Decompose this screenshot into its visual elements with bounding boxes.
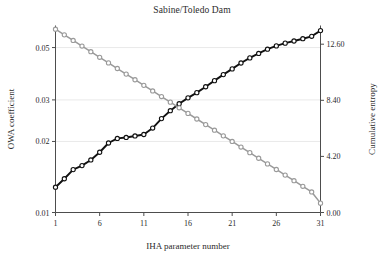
y-axis-label: OWA coefficient xyxy=(6,88,16,149)
data-point-marker xyxy=(151,89,155,93)
data-point-marker xyxy=(204,123,208,127)
plot-frame xyxy=(56,26,321,213)
x-tick-label: 11 xyxy=(140,219,148,228)
data-point-marker xyxy=(106,61,110,65)
data-point-marker xyxy=(89,50,93,54)
data-point-marker xyxy=(248,56,252,60)
data-point-marker xyxy=(151,126,155,130)
data-point-marker xyxy=(212,79,216,83)
y2-tick-label: 12.60 xyxy=(327,40,345,49)
data-point-marker xyxy=(62,177,66,181)
data-point-marker xyxy=(230,67,234,71)
data-point-marker xyxy=(283,173,287,177)
data-point-marker xyxy=(274,44,278,48)
data-point-marker xyxy=(53,27,57,31)
data-point-marker xyxy=(124,72,128,76)
data-point-marker xyxy=(292,179,296,183)
y-tick-labels: 0.010.020.030.05 xyxy=(36,44,50,218)
gridlines-group xyxy=(56,48,321,142)
chart-plot-area: 161116212631 0.010.020.030.05 0.004.208.… xyxy=(0,0,384,256)
data-point-marker xyxy=(248,151,252,155)
data-point-marker xyxy=(195,117,199,121)
data-point-marker xyxy=(283,41,287,45)
data-point-marker xyxy=(239,145,243,149)
data-point-marker xyxy=(53,185,57,189)
data-point-marker xyxy=(80,44,84,48)
data-point-marker xyxy=(133,78,137,82)
data-point-marker xyxy=(310,34,314,38)
x-tick-label: 16 xyxy=(184,219,192,228)
y2-tick-label: 0.00 xyxy=(327,209,341,218)
data-point-marker xyxy=(177,106,181,110)
data-point-marker xyxy=(186,96,190,100)
data-point-marker xyxy=(195,91,199,95)
data-point-marker xyxy=(310,190,314,194)
data-point-marker xyxy=(159,116,163,120)
data-point-marker xyxy=(142,132,146,136)
data-point-marker xyxy=(230,139,234,143)
data-point-marker xyxy=(186,111,190,115)
series-line xyxy=(56,29,321,203)
data-point-marker xyxy=(168,100,172,104)
data-point-marker xyxy=(133,134,137,138)
tick-marks-group xyxy=(52,44,324,216)
data-point-marker xyxy=(204,85,208,89)
y2-tick-label: 8.40 xyxy=(327,96,341,105)
data-point-marker xyxy=(98,55,102,59)
data-point-marker xyxy=(115,136,119,140)
x-tick-label: 1 xyxy=(54,219,58,228)
data-point-marker xyxy=(124,135,128,139)
data-point-marker xyxy=(301,37,305,41)
y-tick-label: 0.01 xyxy=(36,209,50,218)
series-1 xyxy=(53,28,322,189)
data-point-marker xyxy=(159,94,163,98)
data-point-marker xyxy=(142,83,146,87)
data-point-marker xyxy=(257,156,261,160)
data-point-marker xyxy=(265,47,269,51)
x-tick-label: 21 xyxy=(228,219,236,228)
data-point-marker xyxy=(221,73,225,77)
data-point-marker xyxy=(212,128,216,132)
x-axis-label: IHA parameter number xyxy=(146,241,229,251)
data-point-marker xyxy=(301,184,305,188)
data-point-marker xyxy=(239,61,243,65)
data-point-marker xyxy=(71,38,75,42)
data-series-layer xyxy=(53,27,322,205)
data-point-marker xyxy=(80,164,84,168)
x-tick-labels: 161116212631 xyxy=(54,219,325,228)
y2-tick-labels: 0.004.208.4012.60 xyxy=(327,40,345,217)
y2-axis-label: Cumulative entropy xyxy=(367,83,377,155)
data-point-marker xyxy=(318,28,322,32)
x-tick-label: 6 xyxy=(98,219,102,228)
y-tick-label: 0.02 xyxy=(36,137,50,146)
chart-figure: Sabine/Toledo Dam 161116212631 0.010.020… xyxy=(0,0,384,256)
y2-tick-label: 4.20 xyxy=(327,152,341,161)
y-tick-label: 0.03 xyxy=(36,96,50,105)
data-point-marker xyxy=(265,162,269,166)
data-point-marker xyxy=(292,39,296,43)
x-tick-label: 26 xyxy=(272,219,280,228)
data-point-marker xyxy=(71,167,75,171)
data-point-marker xyxy=(221,134,225,138)
data-point-marker xyxy=(115,66,119,70)
data-point-marker xyxy=(257,51,261,55)
y-tick-label: 0.05 xyxy=(36,44,50,53)
data-point-marker xyxy=(89,158,93,162)
data-point-marker xyxy=(274,167,278,171)
data-point-marker xyxy=(98,150,102,154)
data-point-marker xyxy=(106,141,110,145)
data-point-marker xyxy=(168,109,172,113)
data-point-marker xyxy=(318,201,322,205)
x-tick-label: 31 xyxy=(317,219,325,228)
data-point-marker xyxy=(62,33,66,37)
series-2 xyxy=(53,27,322,205)
